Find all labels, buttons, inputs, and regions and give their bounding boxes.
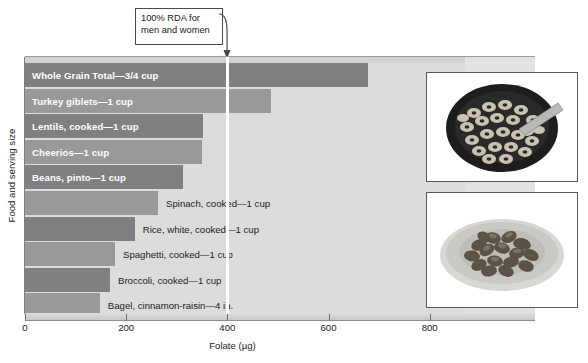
bar-3: Lentils, cooked—1 cup [25, 114, 203, 138]
y-axis-title: Food and serving size [6, 111, 17, 241]
x-tick-label-600: 600 [321, 322, 337, 333]
cereal-bowl-photo [426, 72, 578, 182]
bar-label-5: Beans, pinto—1 cup [32, 172, 126, 183]
bar-8 [25, 242, 115, 266]
bar-7 [25, 217, 135, 241]
x-axis-title: Folate (µg) [0, 340, 465, 351]
bar-10 [25, 293, 100, 313]
pinto-beans-plate-photo [426, 192, 578, 308]
x-tick-label-200: 200 [118, 322, 134, 333]
x-tick-400 [227, 314, 228, 320]
x-tick-600 [329, 314, 330, 320]
bar-5: Beans, pinto—1 cup [25, 165, 183, 189]
chart-figure: 100% RDA for men and women Whole Grain T… [0, 0, 588, 363]
x-tick-800 [430, 314, 431, 320]
rda-reference-line [226, 57, 229, 314]
bar-1: Whole Grain Total—3/4 cup [25, 63, 368, 87]
bar-label-7: Rice, white, cooked—1 cup [143, 223, 259, 234]
callout-arrow-icon [218, 12, 242, 60]
bar-2: Turkey giblets—1 cup [25, 89, 271, 113]
bar-6 [25, 191, 158, 215]
plot-area: Whole Grain Total—3/4 cupTurkey giblets—… [25, 57, 465, 313]
plot-bottom-edge [25, 313, 535, 321]
x-tick-label-800: 800 [422, 322, 438, 333]
bar-label-8: Spaghetti, cooked—1 cup [123, 249, 233, 260]
x-tick-label-0: 0 [22, 322, 27, 333]
bar-9 [25, 268, 110, 292]
bar-label-4: Cheerios—1 cup [32, 146, 109, 157]
bar-label-9: Broccoli, cooked—1 cup [118, 274, 221, 285]
x-tick-label-400: 400 [219, 322, 235, 333]
bar-4: Cheerios—1 cup [25, 140, 202, 164]
rda-callout-box: 100% RDA for men and women [135, 8, 223, 45]
bar-label-3: Lentils, cooked—1 cup [32, 121, 139, 132]
bar-label-10: Bagel, cinnamon-raisin—4 in. [108, 300, 233, 311]
x-tick-0 [25, 314, 26, 320]
bar-label-1: Whole Grain Total—3/4 cup [32, 70, 159, 81]
bar-label-6: Spinach, cooked—1 cup [166, 198, 270, 209]
bar-label-2: Turkey giblets—1 cup [32, 95, 133, 106]
x-tick-200 [126, 314, 127, 320]
